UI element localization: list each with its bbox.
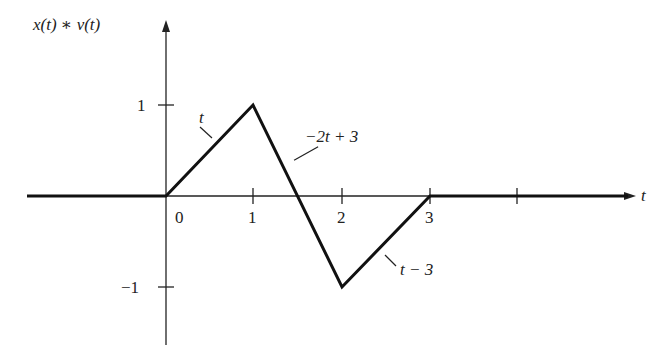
y-tick-label-neg1: −1 [121, 278, 139, 297]
x-tick-label-0: 0 [175, 208, 184, 227]
leader-seg1 [200, 127, 212, 138]
chart: x(t) ∗ v(t) t 0 1 2 3 1 −1 t −2t + 3 t −… [0, 0, 670, 357]
segment-label-neg2t-plus-3: −2t + 3 [305, 127, 358, 146]
y-tick-label-1: 1 [137, 96, 146, 115]
x-tick-label-1: 1 [248, 208, 257, 227]
x-axis-label: t [641, 186, 647, 205]
leader-seg3 [385, 255, 396, 266]
y-axis-label: x(t) ∗ v(t) [32, 15, 101, 34]
y-axis-arrow-icon [162, 20, 170, 32]
segment-label-t: t [199, 108, 205, 127]
x-tick-label-3: 3 [425, 208, 434, 227]
segment-label-t-minus-3: t − 3 [400, 260, 433, 279]
x-tick-label-2: 2 [337, 208, 346, 227]
leader-seg2 [293, 147, 320, 160]
